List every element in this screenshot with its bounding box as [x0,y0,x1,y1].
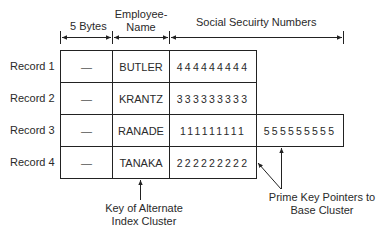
annotation-prime-line1: Prime Key Pointers to [269,191,375,204]
ssn-cell: 333333333 [170,83,256,114]
record-label: Record 4 [10,156,55,168]
name-cell: BUTLER [113,51,169,82]
name-cell: RANADE [113,115,169,146]
bytes-cell: — [61,115,112,146]
header-ssn: Social Secuirty Numbers [196,16,316,28]
record-label: Record 3 [10,124,55,136]
bytes-cell: — [61,51,112,82]
ssn-cell-extra: 555555555 [257,115,343,146]
bytes-cell: — [61,147,112,178]
ssn-cell: 222222222 [170,147,256,178]
ssn-cell: 444444444 [170,51,256,82]
header-5-bytes: 5 Bytes [70,20,107,32]
header-employee-name-line2: Name [115,21,168,34]
bytes-cell: — [61,83,112,114]
record-label: Record 1 [10,60,55,72]
header-employee-name-line1: Employee- [115,8,168,21]
annotation-prime-key-pointers: Prime Key Pointers to Base Cluster [269,191,375,217]
record-label: Record 2 [10,92,55,104]
name-cell: TANAKA [113,147,169,178]
ssn-cell: 111111111 [170,115,256,146]
annotation-key-line2: Index Cluster [105,215,183,228]
name-cell: KRANTZ [113,83,169,114]
annotation-key-line1: Key of Alternate [105,202,183,215]
annotation-prime-line2: Base Cluster [269,204,375,217]
annotation-key-alternate-index: Key of Alternate Index Cluster [105,202,183,228]
header-employee-name: Employee- Name [115,8,168,34]
